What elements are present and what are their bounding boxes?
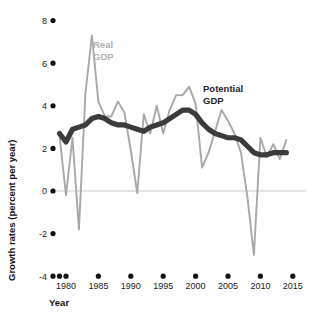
x-tick-label: 2010 [250, 281, 270, 291]
y-tick-dot [50, 61, 55, 66]
x-tick-dot [290, 274, 295, 279]
x-tick-dot-origin [57, 274, 62, 279]
potential-gdp-label-line1: Potential [203, 83, 243, 94]
x-tick-label: 2015 [283, 281, 303, 291]
y-tick-dot [50, 231, 55, 236]
y-tick-dot [50, 18, 55, 23]
y-tick-dot [50, 103, 55, 108]
x-tick-dot [193, 274, 198, 279]
y-tick-label: -4 [39, 272, 47, 282]
x-axis-title: Year [49, 297, 69, 308]
y-tick-dot [50, 146, 55, 151]
x-tick-dot [63, 274, 68, 279]
y-axis-title: Growth rates (percent per year) [6, 140, 17, 282]
y-tick-dot [50, 188, 55, 193]
x-tick-label: 1990 [121, 281, 141, 291]
x-tick-dot [161, 274, 166, 279]
y-tick-dot [50, 274, 55, 279]
x-tick-dot [258, 274, 263, 279]
chart-background [0, 0, 318, 324]
x-tick-dot [225, 274, 230, 279]
x-tick-label: 2000 [186, 281, 206, 291]
x-tick-label: 1980 [56, 281, 76, 291]
chart-container: 86420-2-4 198019851990199520002005201020… [0, 0, 318, 324]
y-tick-label: 8 [42, 16, 47, 26]
y-tick-label: 2 [42, 144, 47, 154]
x-tick-label: 2005 [218, 281, 238, 291]
potential-gdp-label-line2: GDP [203, 95, 224, 106]
real-gdp-label-line2: GDP [93, 51, 114, 62]
x-tick-dot [96, 274, 101, 279]
real-gdp-label-line1: Real [93, 39, 113, 50]
y-tick-label: -2 [39, 229, 47, 239]
y-tick-label: 4 [42, 101, 47, 111]
x-tick-dot [128, 274, 133, 279]
y-tick-label: 0 [42, 186, 47, 196]
x-tick-label: 1985 [88, 281, 108, 291]
x-tick-label: 1995 [153, 281, 173, 291]
gdp-growth-line-chart: 86420-2-4 198019851990199520002005201020… [0, 0, 318, 324]
y-tick-label: 6 [42, 59, 47, 69]
